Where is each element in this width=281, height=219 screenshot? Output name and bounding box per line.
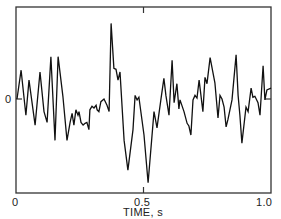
plot-frame [16,7,271,193]
waveform-chart [0,0,281,219]
x-axis-title: TIME, s [123,207,163,218]
signal-waveform-line [17,23,271,182]
x-tick-label-0: 0 [12,197,18,208]
y-tick-label-zero: 0 [5,94,11,105]
x-tick-label-1-0: 1.0 [256,197,272,208]
